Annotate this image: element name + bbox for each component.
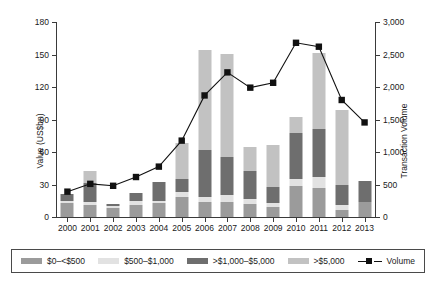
- y-axis-left-tick-label: 30: [40, 181, 49, 190]
- x-axis-tick: [250, 218, 251, 222]
- x-axis-tick-label: 2010: [287, 224, 306, 233]
- legend-item[interactable]: >$5,000: [288, 257, 345, 266]
- y-axis-left-tick-label: 180: [35, 18, 49, 27]
- chart-legend: $0–<$500$500–$1,000>$1,000–$5,000>$5,000…: [11, 249, 425, 273]
- y-axis-right-tick-label: 2,500: [383, 51, 404, 60]
- y-axis-right-tick: [376, 87, 380, 88]
- volume-data-point: [316, 44, 322, 50]
- legend-item[interactable]: $0–<$500: [21, 257, 85, 266]
- y-axis-left-tick-label: 120: [35, 83, 49, 92]
- legend-swatch-icon: [21, 258, 42, 264]
- x-axis-tick: [319, 218, 320, 222]
- x-axis-tick: [182, 218, 183, 222]
- legend-label: Volume: [387, 257, 415, 266]
- legend-label: $500–$1,000: [124, 257, 174, 266]
- volume-data-point: [87, 181, 93, 187]
- y-axis-right-tick-label: 0: [383, 213, 388, 222]
- plot-area: 1801501209060300 3,0002,5002,0001,5001,0…: [56, 22, 376, 218]
- x-axis-tick: [67, 218, 68, 222]
- volume-data-point: [179, 137, 185, 143]
- x-axis-tick: [296, 218, 297, 222]
- volume-data-point: [156, 163, 162, 169]
- x-axis-tick: [273, 218, 274, 222]
- x-axis-tick: [159, 218, 160, 222]
- legend-line-marker-icon: [358, 257, 382, 265]
- y-axis-right-tick-label: 1,000: [383, 148, 404, 157]
- x-axis-tick-label: 2013: [355, 224, 374, 233]
- legend-item[interactable]: $500–$1,000: [98, 257, 174, 266]
- x-axis-tick-label: 2000: [58, 224, 77, 233]
- volume-data-point: [201, 92, 207, 98]
- x-axis-tick-label: 2011: [310, 224, 328, 233]
- volume-data-point: [224, 69, 230, 75]
- x-axis-tick-label: 2006: [195, 224, 214, 233]
- x-axis-tick: [205, 218, 206, 222]
- y-axis-right-tick-label: 2,000: [383, 83, 404, 92]
- x-axis-tick: [342, 218, 343, 222]
- y-axis-right-tick: [376, 217, 380, 218]
- y-axis-left-tick-label: 60: [40, 148, 49, 157]
- x-axis-tick-label: 2002: [104, 224, 123, 233]
- y-axis-left-tick-label: 90: [40, 116, 49, 125]
- x-axis-tick-label: 2007: [218, 224, 237, 233]
- x-axis-tick-label: 2012: [332, 224, 351, 233]
- x-axis-tick-label: 2001: [81, 224, 100, 233]
- volume-data-point: [64, 188, 70, 194]
- volume-data-point: [361, 119, 367, 125]
- volume-data-point: [339, 97, 345, 103]
- y-axis-right-tick-label: 1,500: [383, 116, 404, 125]
- y-axis-left-tick-label: 150: [35, 51, 49, 60]
- x-axis-tick-label: 2005: [172, 224, 191, 233]
- legend-label: >$5,000: [314, 257, 345, 266]
- y-axis-right-tick: [376, 185, 380, 186]
- x-axis-tick-label: 2004: [149, 224, 168, 233]
- volume-data-point: [293, 40, 299, 46]
- x-axis-tick-label: 2008: [241, 224, 260, 233]
- volume-line-path: [67, 43, 364, 192]
- legend-label: >$1,000–$5,000: [213, 257, 275, 266]
- legend-swatch-icon: [187, 258, 208, 264]
- x-axis-tick: [136, 218, 137, 222]
- volume-line-series: [56, 22, 376, 218]
- x-axis-tick-label: 2003: [127, 224, 146, 233]
- volume-data-point: [247, 84, 253, 90]
- y-axis-right-tick: [376, 55, 380, 56]
- y-axis-left-tick-label: 0: [44, 213, 49, 222]
- legend-item[interactable]: >$1,000–$5,000: [187, 257, 275, 266]
- legend-item[interactable]: Volume: [358, 257, 415, 266]
- y-axis-right-tick: [376, 120, 380, 121]
- x-axis-tick: [227, 218, 228, 222]
- chart-figure: Value (US$bn) Transaction Volume 1801501…: [0, 0, 436, 282]
- volume-data-point: [110, 183, 116, 189]
- x-axis-tick: [365, 218, 366, 222]
- legend-swatch-icon: [288, 258, 309, 264]
- y-axis-right-tick: [376, 22, 380, 23]
- x-axis-tick: [113, 218, 114, 222]
- y-axis-right-tick-label: 500: [383, 181, 397, 190]
- legend-label: $0–<$500: [47, 257, 85, 266]
- x-axis-tick-label: 2009: [264, 224, 283, 233]
- y-axis-right-tick: [376, 152, 380, 153]
- legend-swatch-icon: [98, 258, 119, 264]
- volume-data-point: [133, 174, 139, 180]
- x-axis-tick: [90, 218, 91, 222]
- y-axis-right-tick-label: 3,000: [383, 18, 404, 27]
- volume-data-point: [270, 80, 276, 86]
